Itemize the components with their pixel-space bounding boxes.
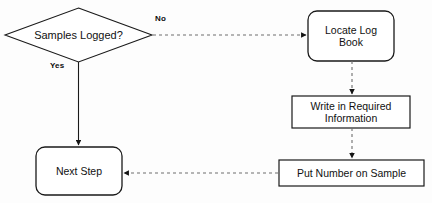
flowchart-vector-layer <box>0 0 432 203</box>
edge-label-yes: Yes <box>50 62 64 70</box>
node-next-shape[interactable] <box>36 147 122 195</box>
node-put-shape[interactable] <box>279 160 424 186</box>
node-locate-shape[interactable] <box>308 11 394 61</box>
edge-label-no: No <box>155 15 166 23</box>
node-decision-shape[interactable] <box>5 8 152 62</box>
flowchart-canvas: Samples Logged? Locate Log Book Write in… <box>0 0 432 203</box>
node-write-shape[interactable] <box>292 96 410 128</box>
